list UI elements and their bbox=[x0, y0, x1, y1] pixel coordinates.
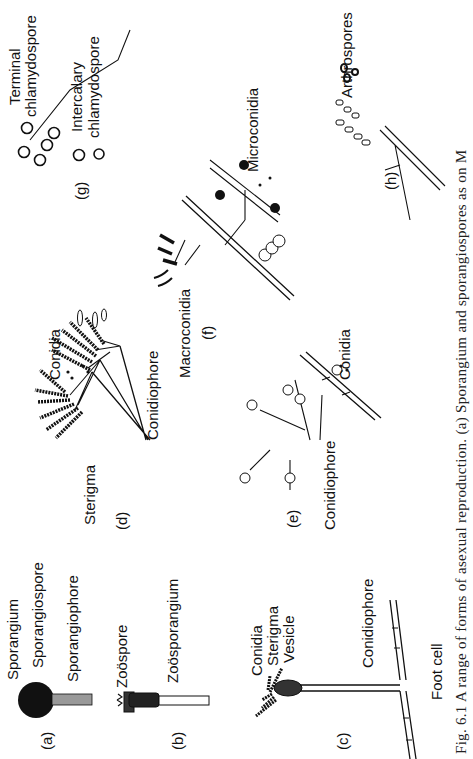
label-sporangiophore: Sporangiophore bbox=[64, 575, 81, 682]
panel-label-g: (g) bbox=[72, 182, 89, 200]
panel-label-b: (b) bbox=[169, 732, 186, 750]
panel-label-h: (h) bbox=[382, 172, 399, 190]
label-intercalary-chlamydospore: chlamydospore bbox=[85, 36, 102, 138]
label-sporangiospore: Sporangiospore bbox=[29, 562, 46, 668]
label-sterigma-d: Sterigma bbox=[81, 464, 98, 525]
label-sterigma-c: Sterigma bbox=[264, 605, 281, 666]
panel-label-e: (e) bbox=[284, 510, 301, 528]
label-conidia-e: Conidia bbox=[336, 328, 353, 380]
label-zoosporangium: Zoösporangium bbox=[164, 579, 181, 683]
panel-h-arthrospores: Arthrospores (h) bbox=[336, 12, 445, 220]
panel-g-chlamydospores: Terminal chlamydospore Intercalary chlam… bbox=[6, 15, 130, 200]
panel-label-d: (d) bbox=[113, 512, 130, 530]
label-terminal: Terminal bbox=[6, 48, 23, 105]
panel-label-c: (c) bbox=[334, 733, 351, 751]
zoospore-shape bbox=[117, 694, 122, 706]
panel-b-zoosporangium: Zoöspore Zoösporangium (b) bbox=[113, 579, 209, 750]
sporangium-shape bbox=[18, 682, 54, 718]
label-terminal-chlamydospore: chlamydospore bbox=[22, 15, 39, 117]
foot-cell-hypha bbox=[390, 600, 416, 759]
conidiophore-stalk-d bbox=[92, 346, 150, 440]
label-foot-cell: Foot cell bbox=[428, 643, 445, 700]
label-conidiophore-e: Conidiophore bbox=[321, 441, 338, 530]
label-intercalary: Intercalary bbox=[68, 61, 85, 132]
label-conidia-d: Conidia bbox=[46, 328, 63, 380]
label-arthrospores: Arthrospores bbox=[338, 12, 355, 98]
sporangiophore-shape bbox=[52, 694, 92, 705]
figure-caption: Fig. 6.1 A range of forms of asexual rep… bbox=[453, 150, 470, 754]
panel-d-penicillus: Conidia Conidiophore Sterigma (d) bbox=[35, 309, 161, 530]
label-conidiophore-d: Conidiophore bbox=[144, 351, 161, 440]
asexual-reproduction-figure: Sporangium Sporangiospore Sporangiophore… bbox=[0, 0, 473, 759]
label-microconidia: Microconidia bbox=[244, 87, 261, 172]
vesicle-shape bbox=[274, 680, 302, 696]
label-conidiophore-c: Conidiophore bbox=[359, 579, 376, 668]
panel-label-a: (a) bbox=[38, 732, 55, 750]
conidiophore-stalk bbox=[300, 685, 400, 691]
panel-label-f: (f) bbox=[199, 326, 216, 340]
label-sporangium: Sporangium bbox=[4, 599, 21, 680]
panel-e-conidiophore: Conidia Conidiophore (e) bbox=[240, 328, 381, 530]
label-vesicle: Vesicle bbox=[280, 615, 297, 663]
zoosporangium-stalk bbox=[159, 696, 209, 705]
label-macroconidia: Macroconidia bbox=[176, 288, 193, 378]
label-conidia-c: Conidia bbox=[248, 624, 265, 676]
panel-c-conidiophore: Conidia Sterigma Vesicle Conidiophore Fo… bbox=[248, 579, 445, 759]
panel-a-sporangium: Sporangium Sporangiospore Sporangiophore… bbox=[4, 562, 92, 750]
label-zoospore: Zoöspore bbox=[113, 625, 130, 688]
panel-f-macro-microconidia: Microconidia Macroconidia (f) bbox=[154, 87, 294, 378]
zoosporangium-body bbox=[129, 693, 159, 707]
